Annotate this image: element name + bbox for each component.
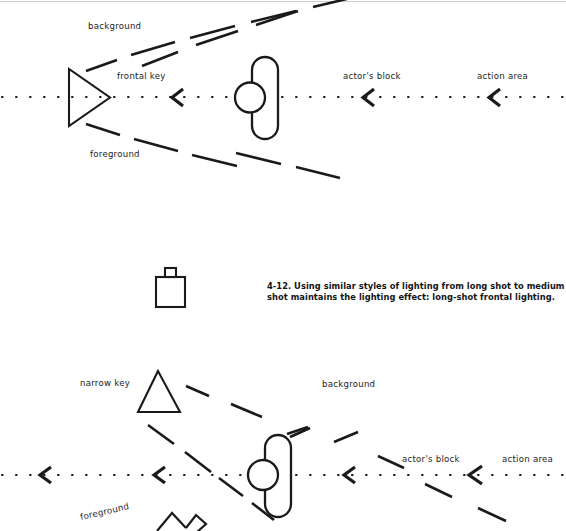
camera-body-square xyxy=(156,277,185,307)
bottom-diagram: narrow key background actor's block acti… xyxy=(2,371,566,531)
chevron-marker-2 xyxy=(154,467,165,483)
bottom-label-foreground: foreground xyxy=(79,501,130,522)
top-key-light-triangle xyxy=(69,69,110,126)
top-label-frontal-key: frontal key xyxy=(117,71,166,81)
top-diagram: background frontal key foreground actor'… xyxy=(2,0,566,178)
top-label-actors-block: actor's block xyxy=(343,71,401,81)
top-label-background: background xyxy=(88,21,141,31)
bottom-label-narrow-key: narrow key xyxy=(80,378,130,388)
diagram-vector-layer: background frontal key foreground actor'… xyxy=(0,0,566,531)
caption-line-1: 4-12. Using similar styles of lighting f… xyxy=(267,281,562,292)
actor-head-circle xyxy=(235,83,265,113)
figure-4-12: background frontal key foreground actor'… xyxy=(0,0,566,531)
bottom-foreground-shape xyxy=(157,513,206,531)
camera-icon xyxy=(156,268,185,307)
chevron-marker-4 xyxy=(469,466,482,484)
bottom-key-light-triangle xyxy=(138,371,180,412)
triangle-pointing-right xyxy=(69,69,110,126)
bottom-label-actors-block: actor's block xyxy=(402,454,460,464)
chevron-marker-3 xyxy=(489,89,500,106)
bottom-label-background: background xyxy=(322,379,375,389)
triangle-pointing-up xyxy=(138,371,180,412)
chevron-marker-2 xyxy=(363,89,374,106)
top-actor-figure xyxy=(235,57,278,139)
top-label-foreground: foreground xyxy=(90,149,140,159)
top-label-action-area: action area xyxy=(477,71,528,81)
figure-caption: 4-12. Using similar styles of lighting f… xyxy=(267,281,562,304)
top-beam-upper-inner xyxy=(142,11,298,66)
top-beam-lower xyxy=(86,124,237,166)
camera-viewfinder-tab xyxy=(165,268,176,277)
chevron-marker-1 xyxy=(172,89,183,106)
bottom-label-action-area: action area xyxy=(502,454,553,464)
top-beam-lower-outer xyxy=(236,153,340,178)
actor-head-circle xyxy=(248,460,278,490)
caption-line-2: shot maintains the lighting effect: long… xyxy=(267,292,562,303)
